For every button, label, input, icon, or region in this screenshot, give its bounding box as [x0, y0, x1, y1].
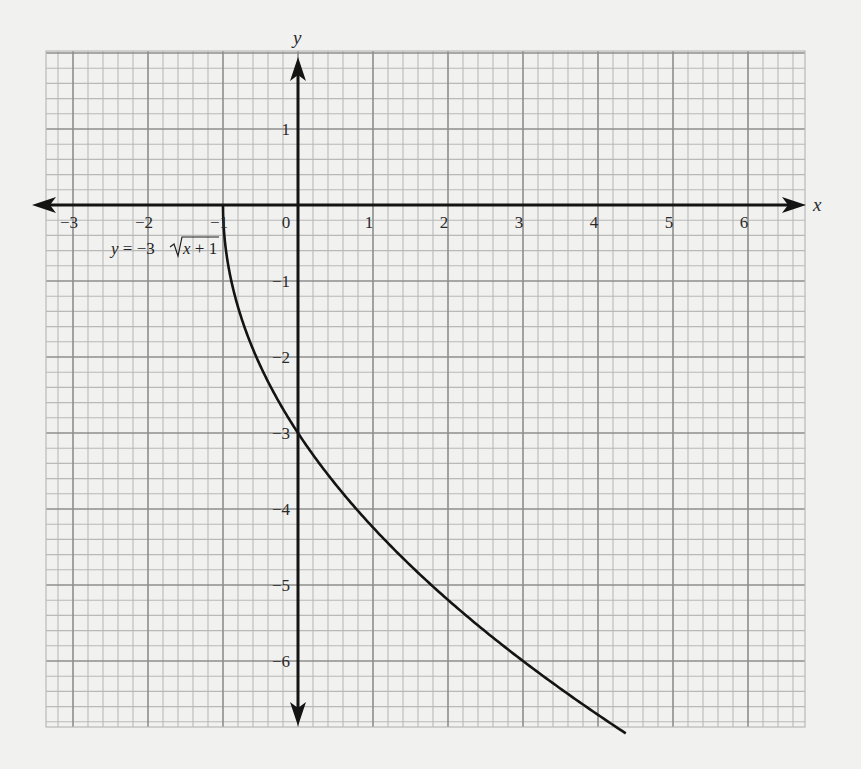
y-tick-label: −5: [272, 576, 290, 595]
x-tick-label: −2: [135, 213, 153, 232]
equation-radicand: x + 1: [182, 239, 217, 258]
coordinate-plane: −3−2−10123456 1−1−2−3−4−5−6 x y y = −3 x…: [0, 0, 861, 769]
y-tick-label: 1: [282, 120, 291, 139]
y-tick-label: −6: [272, 652, 290, 671]
x-tick-label: 3: [515, 213, 524, 232]
grid-major-lines: [46, 51, 805, 727]
equation-prefix: y = −3: [109, 239, 155, 258]
y-axis-label: y: [291, 27, 302, 48]
x-tick-label: 2: [440, 213, 449, 232]
equation-label: y = −3 x + 1: [109, 237, 219, 258]
x-tick-label: 0: [282, 213, 291, 232]
x-tick-label: 1: [365, 213, 374, 232]
y-tick-label: −3: [272, 424, 290, 443]
grid-minor-lines: [46, 51, 805, 727]
x-axis-label: x: [812, 194, 822, 215]
x-tick-label: −3: [60, 213, 78, 232]
x-tick-label: 6: [740, 213, 749, 232]
x-tick-label: 5: [665, 213, 674, 232]
grid-border: [46, 51, 805, 727]
graph-figure: −3−2−10123456 1−1−2−3−4−5−6 x y y = −3 x…: [0, 0, 861, 769]
x-tick-label: −1: [210, 213, 228, 232]
y-tick-label: −2: [272, 348, 290, 367]
y-tick-label: −1: [272, 272, 290, 291]
x-tick-label: 4: [590, 213, 599, 232]
y-tick-label: −4: [272, 500, 291, 519]
